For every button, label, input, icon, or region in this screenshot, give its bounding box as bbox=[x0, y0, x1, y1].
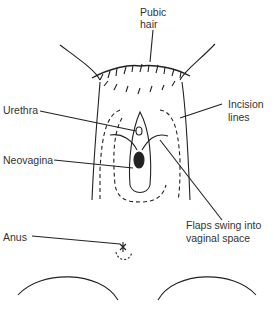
label-urethra: Urethra bbox=[3, 104, 38, 116]
label-flaps-1: Flaps swing into bbox=[186, 219, 261, 231]
label-pubic-hair-2: hair bbox=[140, 18, 158, 30]
diagram: Pubic hair Urethra Incision lines Neovag… bbox=[0, 0, 274, 322]
label-flaps-2: vaginal space bbox=[186, 232, 250, 244]
label-neovagina: Neovagina bbox=[3, 154, 53, 166]
label-pubic-hair-1: Pubic bbox=[140, 6, 166, 18]
label-incision-2: lines bbox=[228, 111, 250, 123]
label-incision-1: Incision bbox=[228, 98, 264, 110]
label-anus: Anus bbox=[3, 231, 27, 243]
